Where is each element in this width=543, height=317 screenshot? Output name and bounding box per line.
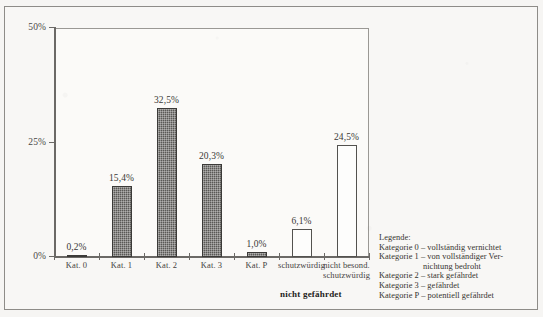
x-axis-tick (234, 253, 235, 260)
bar-schutzw-rdig (292, 229, 312, 257)
y-axis-tick (49, 142, 56, 143)
x-axis-tick (369, 253, 370, 260)
y-axis-tick-label: 0% (33, 251, 46, 261)
bar-kat-p (247, 252, 267, 257)
x-axis-label: nicht besond. schutzwürdig (318, 260, 376, 280)
bar-value-label: 0,2% (55, 242, 99, 252)
bars-layer: 0,2%15,4%32,5%20,3%1,0%6,1%24,5% (55, 28, 369, 257)
x-axis-tick (324, 253, 325, 260)
legend-entry: Kategorie P – potentiell gefährdet (379, 291, 539, 301)
legend-entry: Kategorie 0 – vollständig vernichtet (379, 243, 539, 253)
legend-entry: nichtung bedroht (379, 262, 539, 272)
bar-value-label: 24,5% (325, 132, 369, 142)
bar-value-label: 20,3% (190, 151, 234, 161)
legend-entry: Kategorie 1 – von vollständiger Ver- (379, 252, 539, 262)
figure-outer-frame: 0%25%50% 0,2%15,4%32,5%20,3%1,0%6,1%24,5… (4, 6, 538, 310)
bar-kat-0 (67, 255, 87, 257)
y-axis-tick-label: 25% (28, 137, 46, 147)
bar-value-label: 32,5% (145, 95, 189, 105)
y-axis-tick (49, 27, 56, 28)
legend-box: Legende: Kategorie 0 – vollständig verni… (379, 233, 539, 300)
y-axis-tick-label: 50% (28, 22, 46, 32)
bar-kat-1 (112, 186, 132, 257)
x-axis-tick (144, 253, 145, 260)
legend-entry: Kategorie 3 – gefährdet (379, 281, 539, 291)
x-axis-tick (189, 253, 190, 260)
y-axis-labels: 0%25%50% (5, 7, 46, 267)
bar-value-label: 6,1% (280, 216, 324, 226)
bar-value-label: 15,4% (100, 173, 144, 183)
x-axis-tick (54, 253, 55, 260)
legend-title: Legende: (379, 233, 539, 243)
bar-kat-2 (157, 108, 177, 257)
legend-entry: Kategorie 2 – stark gefährdet (379, 271, 539, 281)
bar-kat-3 (202, 164, 222, 257)
group-label-nicht-gefaehrdet: nicht gefährdet (280, 289, 342, 299)
bar-value-label: 1,0% (235, 239, 279, 249)
scanned-page: 0%25%50% 0,2%15,4%32,5%20,3%1,0%6,1%24,5… (0, 0, 543, 317)
x-axis-tick (99, 253, 100, 260)
x-axis-tick (279, 253, 280, 260)
bar-nicht-besond-schutzw-rdig (337, 145, 357, 257)
